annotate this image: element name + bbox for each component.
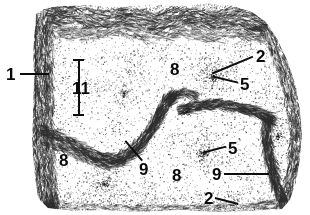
extent-bar-bottom-cap [73, 114, 84, 116]
reference-label-1: 1 [6, 66, 15, 83]
leader-line-9-center [124, 140, 142, 161]
reference-label-9-center: 9 [139, 161, 148, 178]
leader-line-9-right [224, 173, 269, 175]
reference-label-9-right: 9 [212, 166, 221, 183]
figure-root: 1 2 5 8 11 8 9 8 5 9 2 [0, 0, 310, 215]
reference-label-8-bottom: 8 [172, 167, 181, 184]
leader-line-1 [20, 73, 49, 75]
reference-label-2-bottom: 2 [204, 190, 213, 207]
reference-label-8-left: 8 [59, 152, 68, 169]
leader-line-2-top [212, 56, 254, 74]
reference-label-8-top: 8 [170, 61, 179, 78]
leader-line-5-top [213, 76, 238, 84]
reference-label-5-right: 5 [228, 140, 237, 157]
reference-label-11: 11 [72, 80, 90, 97]
reference-label-5-top: 5 [240, 76, 249, 93]
leader-line-5-right [203, 146, 226, 154]
reference-label-2-top: 2 [256, 48, 265, 65]
annotation-layer: 1 2 5 8 11 8 9 8 5 9 2 [0, 0, 310, 215]
leader-line-2-bottom [215, 197, 238, 205]
